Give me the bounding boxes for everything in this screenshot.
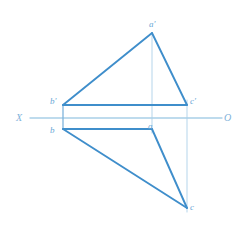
vertex-label-c-prime: c' (190, 97, 196, 106)
vertex-label-b-prime: b' (50, 97, 56, 106)
vertex-label-c: c (190, 203, 194, 212)
vertex-label-a: a (148, 122, 153, 131)
projector-lines-group (152, 33, 187, 212)
edge-bprime-aprime (63, 33, 152, 105)
axis-label-o: O (224, 113, 231, 123)
edge-aprime-cprime (152, 33, 187, 105)
front-view-triangle (63, 33, 187, 105)
drawing-canvas: X O a' b' c' a b c (0, 0, 240, 247)
vertex-label-a-prime: a' (149, 20, 155, 29)
axis-label-x: X (16, 113, 22, 123)
edge-b-c (63, 129, 187, 208)
top-view-triangle (63, 129, 187, 208)
projection-figure (0, 0, 240, 247)
vertex-label-b: b (50, 126, 55, 135)
